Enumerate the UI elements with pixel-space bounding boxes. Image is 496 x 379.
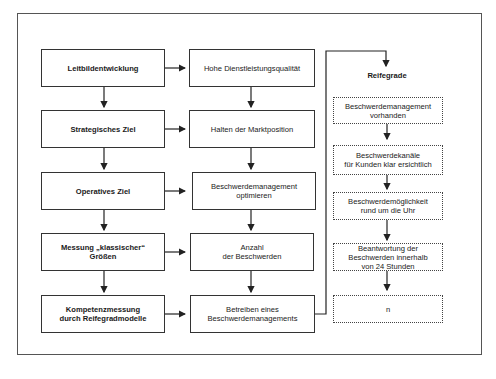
box-label: Beantwortung der Beschwerden innerhalb v… [348,244,427,271]
reifegrad-level-3: Beschwerdemöglichkeit rund um die Uhr [333,192,443,220]
reifegrade-title: Reifegrade [350,71,424,80]
box-kompetenzmessung: Kompetenzmessung durch Reifegradmodelle [41,295,165,333]
box-label: Hohe Dienstleistungsqualität [204,64,300,73]
box-label: Beschwerdemanagement vorhanden [345,102,431,120]
box-betreiben-beschwerdemanagement: Betreiben eines Beschwerdemanagements [190,295,315,333]
box-label: Beschwerdemanagement optimieren [211,182,297,200]
box-label: n [386,305,390,314]
box-anzahl-beschwerden: Anzahl der Beschwerden [190,233,314,271]
box-label: Operatives Ziel [76,187,130,196]
box-label: Strategisches Ziel [71,125,136,134]
box-label: Anzahl der Beschwerden [222,243,281,261]
reifegrad-level-1: Beschwerdemanagement vorhanden [333,97,443,124]
box-messung-groessen: Messung „klassischer“ Größen [41,233,165,271]
box-leitbildentwicklung: Leitbildentwicklung [41,49,165,87]
box-label: Halten der Marktposition [211,125,293,134]
reifegrad-level-2: Beschwerdekanäle für Kunden klar ersicht… [333,145,443,175]
box-beschwerdemanagement-optimieren: Beschwerdemanagement optimieren [192,172,316,210]
box-label: Beschwerdekanäle für Kunden klar ersicht… [344,151,431,169]
box-dienstleistungsqualitaet: Hohe Dienstleistungsqualität [189,49,315,87]
box-operatives-ziel: Operatives Ziel [41,172,165,210]
box-label: Leitbildentwicklung [68,64,139,73]
reifegrad-level-n: n [333,295,443,323]
box-label: Messung „klassischer“ Größen [61,243,145,261]
box-strategisches-ziel: Strategisches Ziel [41,110,165,148]
box-marktposition: Halten der Marktposition [189,110,315,148]
box-label: Betreiben eines Beschwerdemanagements [208,305,298,323]
box-label: Beschwerdemöglichkeit rund um die Uhr [348,197,428,215]
reifegrad-level-4: Beantwortung der Beschwerden innerhalb v… [333,243,443,271]
box-label: Kompetenzmessung durch Reifegradmodelle [60,305,147,323]
